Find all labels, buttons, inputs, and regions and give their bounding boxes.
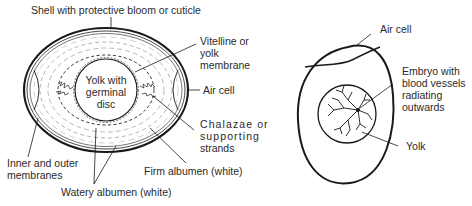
label-yolk-right: Yolk — [406, 140, 425, 152]
leader-watery-1 — [94, 128, 96, 184]
leader-yolk-right — [362, 132, 398, 146]
leader-air-cell-right — [357, 34, 371, 45]
label-yolk-germinal-disc: Yolk with germinal disc — [80, 74, 132, 110]
blood-vessels — [328, 86, 372, 136]
label-firm-albumen: Firm albumen (white) — [144, 165, 243, 177]
label-air-cell-right: Air cell — [380, 23, 412, 35]
label-chalazae: Chalazae or supporting strands — [200, 118, 269, 154]
label-air-cell-left: Air cell — [203, 84, 235, 96]
leader-membranes — [28, 118, 38, 157]
label-embryo: Embryo with blood vessels radiating outw… — [402, 65, 466, 113]
fertilised-egg-drawing — [298, 34, 398, 183]
label-shell: Shell with protective bloom or cuticle — [31, 4, 201, 16]
label-inner-outer-membranes: Inner and outer membranes — [7, 157, 78, 181]
label-vitelline-membrane: Vitelline or yolk membrane — [200, 35, 250, 71]
leader-firm-albumen — [150, 128, 186, 163]
label-watery-albumen: Watery albumen (white) — [61, 186, 171, 198]
